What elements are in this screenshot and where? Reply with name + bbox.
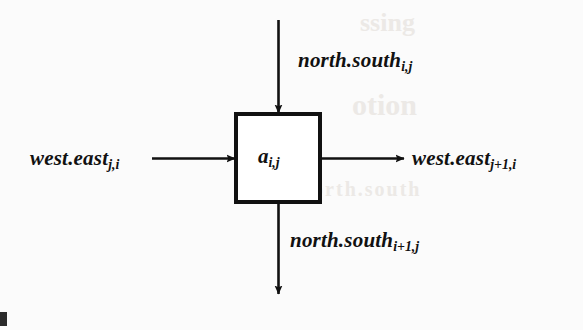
label-north-south-out-subscript: i+1,j xyxy=(393,239,419,254)
label-north-south-in: north.southi,j xyxy=(298,48,412,75)
label-west-east-in: west.eastj,i xyxy=(30,146,119,173)
label-north-south-in-subscript: i,j xyxy=(401,59,412,74)
label-west-east-out-base: west.east xyxy=(412,146,490,170)
scan-edge-artifact xyxy=(0,312,7,326)
cell-label: ai,j xyxy=(258,144,280,171)
label-west-east-in-base: west.east xyxy=(30,146,108,170)
label-north-south-out: north.southi+1,j xyxy=(290,228,419,255)
cell-label-subscript: i,j xyxy=(269,155,280,170)
label-north-south-in-base: north.south xyxy=(298,48,401,72)
label-west-east-out-subscript: j+1,i xyxy=(490,157,516,172)
figure-canvas: ssing otion north.south ai,j north.south… xyxy=(0,0,583,330)
label-west-east-out: west.eastj+1,i xyxy=(412,146,516,173)
label-west-east-in-subscript: j,i xyxy=(108,157,119,172)
cell-label-base: a xyxy=(258,144,269,168)
label-north-south-out-base: north.south xyxy=(290,228,393,252)
